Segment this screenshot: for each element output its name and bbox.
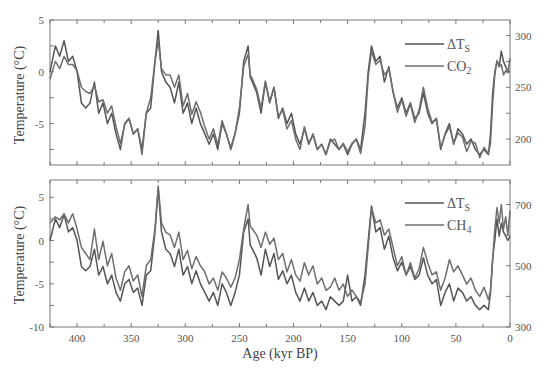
y-tick-label: -10 [29, 321, 44, 333]
bottom-y-axis-title: Temperature (°C) [12, 206, 28, 305]
y-tick-label: 0 [39, 66, 45, 78]
y2-tick-label: 200 [515, 133, 532, 145]
top-panel: 50-5 300250200 Temperature (°C) ΔTS CO2 [12, 14, 532, 165]
bottom-legend: ΔTS CH4 [405, 196, 471, 235]
x-tick-label: 300 [177, 332, 194, 344]
x-tick-label: 250 [231, 332, 248, 344]
x-tick-label: 400 [69, 332, 86, 344]
y2-tick-label: 300 [515, 30, 532, 42]
y2-tick-label: 500 [515, 260, 532, 272]
bottom-panel: 400350300250200150100500 50-5-10 7005003… [12, 180, 532, 344]
bottom-x-ticks: 400350300250200150100500 [50, 180, 513, 344]
x-tick-label: 350 [123, 332, 140, 344]
top-series-co2-line [50, 41, 510, 158]
top-legend-label-dts: ΔTS [447, 37, 470, 54]
x-tick-label: 50 [450, 332, 462, 344]
bottom-legend-label-dts: ΔTS [447, 196, 470, 213]
bottom-series-dts-line [50, 189, 510, 310]
ice-core-chart: 50-5 300250200 Temperature (°C) ΔTS CO2 … [0, 0, 549, 373]
y-tick-label: 0 [39, 235, 45, 247]
top-y-ticks: 50-5 [35, 14, 54, 149]
y-tick-label: -5 [35, 278, 45, 290]
x-axis-title: Age (kyr BP) [242, 346, 318, 362]
top-series-lines [50, 30, 510, 157]
top-legend-label-co2: CO2 [447, 59, 471, 76]
top-legend: ΔTS CO2 [405, 37, 471, 76]
bottom-legend-label-ch4: CH4 [447, 218, 471, 235]
bottom-series-lines [50, 186, 510, 310]
y-tick-label: -5 [35, 118, 45, 130]
y-tick-label: 5 [39, 191, 45, 203]
y2-tick-label: 700 [515, 199, 532, 211]
x-tick-label: 200 [285, 332, 302, 344]
y-tick-label: 5 [39, 14, 45, 26]
x-tick-label: 0 [507, 332, 513, 344]
y2-tick-label: 300 [515, 321, 532, 333]
x-tick-label: 150 [339, 332, 356, 344]
top-y-axis-title: Temperature (°C) [12, 46, 28, 145]
y2-tick-label: 250 [515, 81, 532, 93]
x-tick-label: 100 [394, 332, 411, 344]
